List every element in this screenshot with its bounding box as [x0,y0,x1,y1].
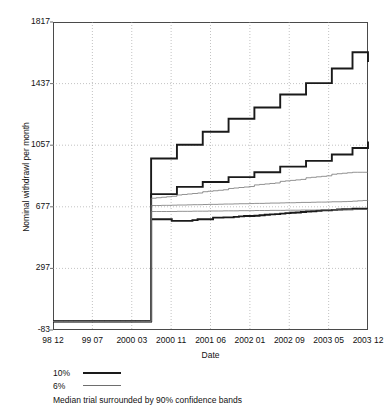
y-tick-label: -83 [4,325,50,334]
chart-figure: 181714371057677297-83 Nominal withdrawl … [0,0,388,419]
legend-label-6: 6% [53,381,77,391]
x-tick-label: 99 07 [82,335,103,345]
x-axis-label: Date [53,350,368,360]
y-tick-label: 297 [4,263,50,272]
legend-swatch-thick-icon [83,372,121,374]
x-tick-label: 2002 09 [274,335,305,345]
x-tick-label: 2000 11 [156,335,186,345]
legend-row: 6% [53,380,383,391]
legend-row: 10% [53,367,383,378]
data-series-line [53,52,368,321]
data-series-layer [53,52,368,321]
x-tick-label: 2001 06 [195,335,226,345]
legend-label-10: 10% [53,368,77,378]
x-tick-label: 2003 12 [353,335,384,345]
legend-caption: Median trial surrounded by 90% confidenc… [53,395,383,405]
x-tick-label: 98 12 [42,335,63,345]
chart-legend: 10% 6% Median trial surrounded by 90% co… [53,367,383,405]
y-tick-label: 1817 [4,17,50,26]
data-series-line [53,172,368,321]
x-tick-label: 2003 05 [313,335,344,345]
data-series-line [53,141,368,321]
x-tick-label: 2002 01 [235,335,266,345]
x-tick-label: 2000 03 [116,335,147,345]
y-tick-label: 1437 [4,79,50,88]
y-axis-label: Nominal withdrawl per month [21,97,31,257]
legend-swatch-thin-icon [83,385,121,386]
gridlines [50,22,368,330]
